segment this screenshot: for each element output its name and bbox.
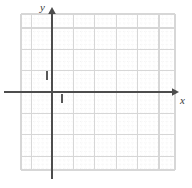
y-axis-arrowhead	[48, 7, 56, 14]
coordinate-plane	[0, 0, 192, 188]
x-axis-label: x	[180, 95, 185, 106]
y-axis-label: y	[40, 2, 45, 13]
coordinate-grid-figure: y x	[0, 0, 192, 188]
